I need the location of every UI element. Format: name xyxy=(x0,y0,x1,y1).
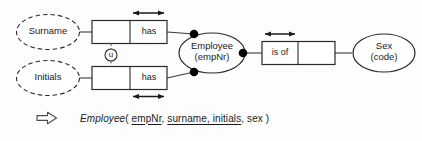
mandatory-role-dot-initials xyxy=(190,68,199,77)
relational-schema-text: Employee( empNr, surname, initials, sex … xyxy=(80,113,269,124)
entity-type-sex[interactable] xyxy=(353,34,415,72)
schema-close-paren: ) xyxy=(263,113,269,124)
orm-diagram-canvas: Surname Initials has has is of u Employe… xyxy=(0,0,422,141)
schema-plain-attribute: sex xyxy=(247,113,263,124)
hollow-right-arrow-icon xyxy=(36,111,58,125)
relational-schema-line: Employee( empNr, surname, initials, sex … xyxy=(36,106,416,130)
entity-type-employee[interactable] xyxy=(179,33,245,73)
uniqueness-circle xyxy=(105,49,117,61)
value-type-surname[interactable] xyxy=(17,15,80,50)
schema-alternate-key: surname, initials xyxy=(167,113,241,124)
predicate-box-surname-has[interactable] xyxy=(92,21,167,44)
mandatory-role-dot-surname xyxy=(190,30,199,39)
schema-relation-name: Employee xyxy=(80,113,125,124)
external-uniqueness-constraint[interactable] xyxy=(105,44,117,67)
predicate-box-sex-is-of[interactable] xyxy=(262,42,335,65)
predicate-box-initials-has[interactable] xyxy=(92,67,167,90)
value-type-initials[interactable] xyxy=(17,61,80,96)
mandatory-role-dot-sex xyxy=(239,49,248,58)
schema-primary-key: empNr xyxy=(132,113,162,124)
